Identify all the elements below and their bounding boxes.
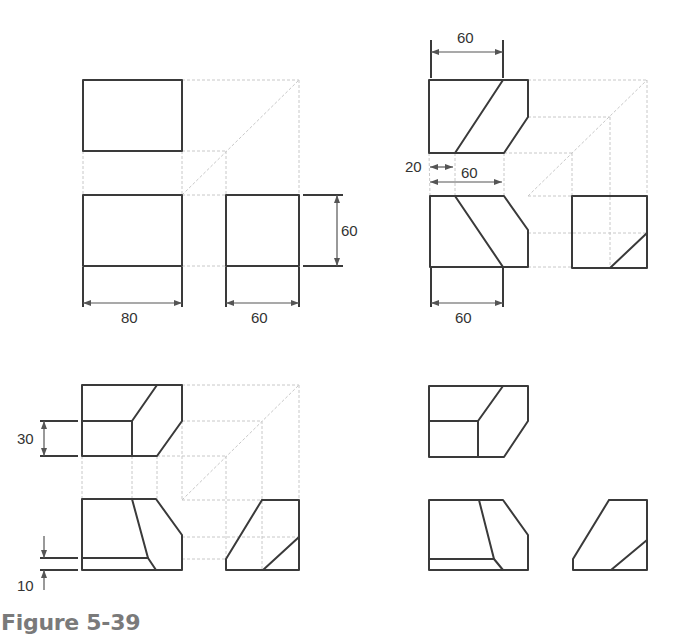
dimension-60: 60: [303, 195, 358, 266]
front-view: [83, 195, 182, 266]
panel-c: [82, 385, 299, 570]
side-view: [226, 500, 299, 570]
front-view: [429, 500, 528, 570]
front-view: [82, 499, 182, 570]
figure-caption: Figure 5-39: [1, 610, 140, 635]
top-view: [82, 385, 182, 456]
dimension-80: 80: [83, 267, 182, 326]
dimension-60: 60: [226, 267, 299, 326]
dimension-label: 20: [405, 158, 422, 175]
dimension-10: 10: [17, 536, 78, 594]
dimension-60: 60: [431, 29, 503, 78]
panel-c-dimensions: 3010: [17, 421, 78, 594]
panel-a-dimensions: 806060: [83, 195, 358, 326]
projection-lines: [82, 80, 647, 570]
top-view: [83, 80, 182, 151]
dimension-label: 60: [457, 29, 474, 46]
side-view: [573, 500, 647, 570]
dimension-label: 80: [121, 309, 138, 326]
dimension-60: 60: [431, 268, 503, 326]
dimension-label: 60: [251, 309, 268, 326]
panel-b-dimensions: 60206060: [405, 29, 503, 326]
panel-c-projection: [82, 385, 299, 570]
dimension-30: 30: [17, 421, 78, 456]
dimension-label: 60: [455, 309, 472, 326]
side-view: [226, 195, 299, 266]
top-view: [429, 80, 528, 153]
orthographic-drawing: 806060602060603010: [0, 0, 681, 640]
object-lines: [82, 80, 647, 570]
top-view: [429, 386, 528, 457]
dimension-label: 60: [341, 222, 358, 239]
panel-a: [83, 80, 299, 266]
dimension-label: 10: [17, 577, 34, 594]
dimension-label: 60: [461, 164, 478, 181]
panel-d: [429, 386, 647, 570]
front-view: [430, 196, 528, 267]
dimension-label: 30: [17, 430, 34, 447]
panel-a-projection: [83, 80, 299, 266]
dimensions: 806060602060603010: [17, 29, 503, 594]
